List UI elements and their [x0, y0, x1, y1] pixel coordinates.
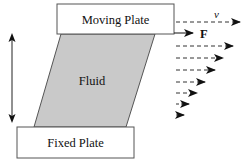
moving-plate-label: Moving Plate	[82, 13, 150, 27]
fixed-plate: Fixed Plate	[17, 127, 134, 158]
velocity-label: v	[214, 8, 219, 20]
gap-height-arrow-icon	[9, 33, 16, 123]
velocity-profile	[176, 22, 240, 115]
moving-plate: Moving Plate	[57, 4, 174, 34]
fluid-label: Fluid	[79, 74, 106, 88]
fixed-plate-label: Fixed Plate	[47, 136, 104, 150]
couette-flow-diagram: Fluid Moving Plate Fixed Plate F v	[0, 0, 246, 166]
force-label: F	[200, 27, 208, 41]
